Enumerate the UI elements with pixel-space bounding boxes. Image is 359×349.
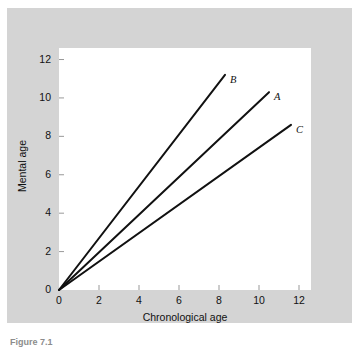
y-tick-label: 4 — [29, 206, 51, 218]
x-tick-label: 0 — [48, 294, 70, 306]
series-line-c — [59, 125, 291, 290]
y-tick-label: 12 — [29, 53, 51, 65]
x-tick-label: 4 — [128, 294, 150, 306]
series-label-a: A — [274, 91, 280, 102]
figure-container: 024681012 024681012 BAC Chronological ag… — [0, 0, 359, 349]
y-tick-label: 2 — [29, 245, 51, 257]
series-line-b — [59, 75, 225, 290]
x-axis-title: Chronological age — [59, 311, 311, 323]
figure-caption: Figure 7.1 — [10, 337, 53, 349]
x-tick-label: 12 — [288, 294, 310, 306]
x-tick-label: 2 — [88, 294, 110, 306]
y-tick-label: 8 — [29, 129, 51, 141]
series-line-a — [59, 92, 269, 290]
series-lines — [59, 75, 291, 290]
chart-svg — [59, 48, 311, 290]
series-label-b: B — [230, 74, 236, 85]
x-tick-label: 6 — [168, 294, 190, 306]
x-tick-label: 10 — [248, 294, 270, 306]
series-label-c: C — [296, 124, 303, 135]
y-tick-label: 6 — [29, 168, 51, 180]
x-tick-label: 8 — [208, 294, 230, 306]
y-axis-title: Mental age — [16, 126, 28, 206]
y-tick-label: 10 — [29, 91, 51, 103]
